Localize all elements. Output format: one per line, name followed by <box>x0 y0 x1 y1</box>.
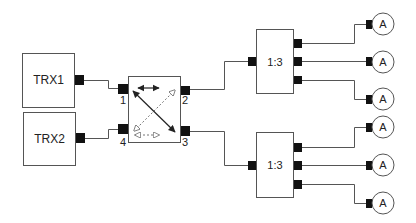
antenna-3-label: A <box>379 93 387 105</box>
trx2-port <box>76 133 85 143</box>
rf-diagram: TRX1 TRX2 1 2 3 4 1:3 <box>0 0 416 223</box>
splitter-lower: 1:3 <box>248 133 302 198</box>
splitter-upper-out-1 <box>294 39 302 48</box>
antenna-5: A <box>366 154 394 176</box>
coupler-port-3 <box>181 126 190 136</box>
antenna-6-label: A <box>379 197 387 209</box>
wire-lower-out1-to-ant4 <box>302 128 366 148</box>
transceiver-trx2: TRX2 <box>24 113 86 166</box>
port-1-label: 1 <box>120 94 126 106</box>
antenna-4-label: A <box>379 121 387 133</box>
antenna-6-port <box>366 199 372 208</box>
wire-port2-to-upper-splitter <box>190 62 248 90</box>
splitter-upper: 1:3 <box>248 30 302 94</box>
antenna-5-label: A <box>379 159 387 171</box>
antenna-4-port <box>366 123 372 132</box>
coupler-box <box>129 77 181 143</box>
antenna-3-port <box>366 95 372 104</box>
trx1-label: TRX1 <box>33 73 64 87</box>
antenna-2-label: A <box>379 56 387 68</box>
port-3-label: 3 <box>182 136 188 148</box>
splitter-upper-label: 1:3 <box>267 56 282 68</box>
wire-upper-out1-to-ant1 <box>302 25 366 44</box>
splitter-lower-out-3 <box>294 180 302 189</box>
wire-trx1-to-port1 <box>84 81 118 89</box>
wire-lower-out3-to-ant6 <box>302 185 366 204</box>
splitter-lower-out-1 <box>294 143 302 152</box>
coupler-port-4 <box>118 124 128 134</box>
hybrid-coupler: 1 2 3 4 <box>118 77 190 149</box>
wire-upper-out3-to-ant3 <box>302 81 366 100</box>
antenna-1-port <box>366 20 372 29</box>
wire-trx2-to-port4 <box>85 130 118 139</box>
trx2-label: TRX2 <box>34 132 65 146</box>
antenna-1-label: A <box>379 18 387 30</box>
antenna-5-port <box>366 161 372 170</box>
coupler-port-1 <box>118 84 128 94</box>
antenna-2: A <box>366 51 394 73</box>
splitter-lower-label: 1:3 <box>267 159 282 171</box>
splitter-upper-input-port <box>248 57 256 66</box>
antenna-4: A <box>366 116 394 138</box>
antenna-1: A <box>366 13 394 35</box>
port-4-label: 4 <box>120 136 126 148</box>
port-2-label: 2 <box>182 94 188 106</box>
antenna-3: A <box>366 88 394 110</box>
splitter-upper-out-3 <box>294 76 302 84</box>
antenna-6: A <box>366 192 394 214</box>
trx1-port <box>75 75 84 85</box>
transceiver-trx1: TRX1 <box>23 54 85 108</box>
splitter-lower-out-2 <box>294 161 302 170</box>
splitter-lower-input-port <box>248 161 256 170</box>
wire-port3-to-lower-splitter <box>190 132 248 166</box>
splitter-upper-out-2 <box>294 57 302 66</box>
antenna-2-port <box>366 57 372 66</box>
